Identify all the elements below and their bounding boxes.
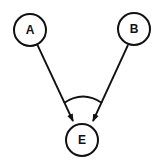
node-e-label: E [78, 134, 86, 146]
node-a[interactable]: A [13, 13, 47, 47]
node-b[interactable]: B [117, 12, 151, 46]
node-e[interactable]: E [65, 123, 99, 157]
edge-a-to-e [37, 44, 73, 121]
node-b-label: B [130, 23, 139, 35]
diagram-canvas: A B E [0, 0, 164, 166]
node-a-label: A [26, 24, 35, 36]
edge-b-to-e [93, 45, 128, 121]
conjunction-arc [64, 97, 102, 104]
